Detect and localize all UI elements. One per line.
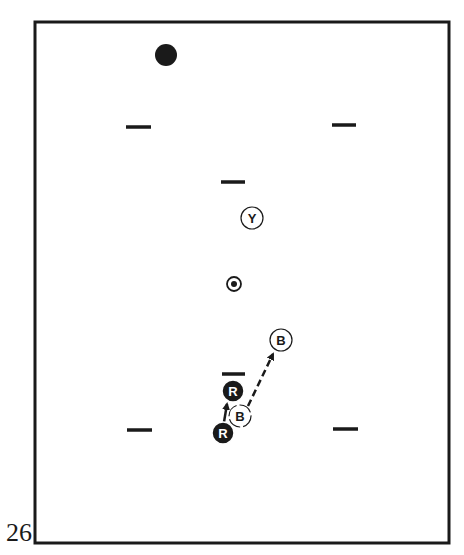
figure-number: 26 — [6, 520, 32, 546]
ball-blue-start-icon: B — [229, 405, 251, 427]
ball-yellow-icon: Y — [241, 207, 263, 229]
ball-label: Y — [248, 211, 257, 226]
ball-label: R — [218, 426, 228, 441]
ball-label: B — [235, 409, 244, 424]
balls-group: YBRBR — [212, 207, 292, 444]
ball-label: R — [228, 384, 238, 399]
top-ball-icon — [155, 44, 177, 66]
croquet-diagram: YBRBR — [0, 0, 464, 555]
court-boundary — [35, 22, 449, 543]
center-stake-icon — [227, 277, 241, 291]
ball-red-start-icon: R — [212, 422, 234, 444]
ball-red-target-icon: R — [222, 380, 244, 402]
ball-label: B — [276, 333, 285, 348]
ball-blue-target-icon: B — [270, 329, 292, 351]
arrow-red-path-icon — [224, 404, 227, 422]
arrow-blue-path-icon — [248, 354, 273, 406]
